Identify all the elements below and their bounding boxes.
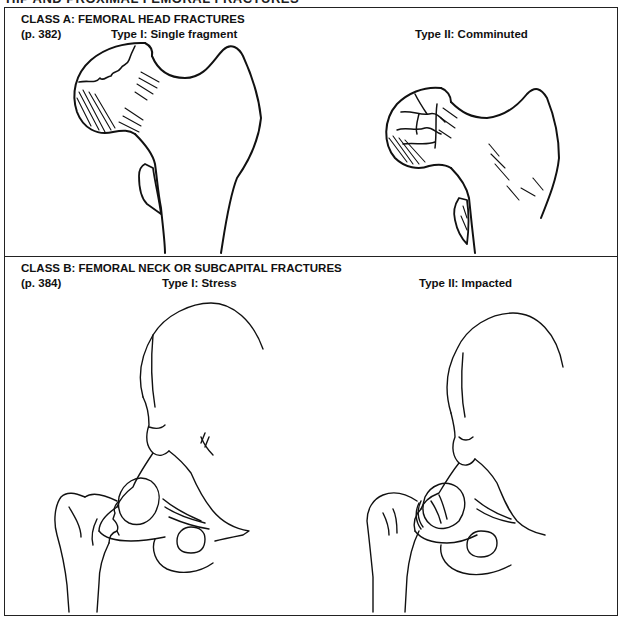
class-a-panel: CLASS A: FEMORAL HEAD FRACTURES (p. 382)… — [4, 7, 618, 258]
femur-head-single-fragment-illustration — [5, 8, 317, 258]
hip-joint-impacted-fracture-illustration — [311, 287, 623, 617]
page-heading-cut-off: HIP AND PROXIMAL FEMORAL FRACTURES — [6, 0, 299, 6]
femur-head-comminuted-illustration — [311, 8, 623, 258]
class-b-title: CLASS B: FEMORAL NECK OR SUBCAPITAL FRAC… — [21, 262, 342, 274]
class-b-panel: CLASS B: FEMORAL NECK OR SUBCAPITAL FRAC… — [4, 256, 618, 616]
hip-joint-stress-fracture-illustration — [5, 287, 317, 617]
